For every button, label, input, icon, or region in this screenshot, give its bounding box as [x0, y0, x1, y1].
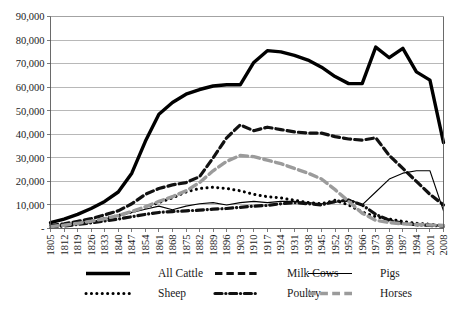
x-axis-tick-label: 1966 — [357, 235, 368, 256]
x-axis-tick-label: 1994 — [411, 234, 422, 256]
x-axis-tick-label: 1973 — [370, 235, 381, 256]
series-line-milk-cows — [51, 125, 444, 226]
x-axis-tick-label: 1819 — [72, 235, 83, 256]
y-axis-tick-label: 30,000 — [16, 153, 45, 164]
y-axis-tick-label: 90,000 — [16, 11, 45, 22]
legend-label: Sheep — [158, 287, 186, 300]
x-axis-tick-label: 1952 — [330, 235, 341, 256]
x-axis-tick-label: 1861 — [154, 235, 165, 256]
livestock-line-chart: -10,00020,00030,00040,00050,00060,00070,… — [0, 0, 457, 313]
x-axis-tick-label: 1910 — [248, 235, 259, 256]
legend-label: All Cattle — [158, 267, 203, 279]
y-axis-tick-label: 40,000 — [16, 129, 45, 140]
x-axis-tick-label: 1938 — [303, 235, 314, 256]
legend-label: Horses — [380, 287, 412, 299]
x-axis-tick-label: 1903 — [235, 235, 246, 256]
legend-item-poultry[interactable]: Poultry — [215, 287, 321, 300]
x-axis-tick-label: 1882 — [194, 235, 205, 256]
x-axis-tick-label: 1945 — [316, 235, 327, 256]
y-axis-tick-label: 20,000 — [16, 176, 45, 187]
x-axis-tick-label: 1805 — [45, 235, 56, 256]
x-axis-tick-label: 2008 — [438, 235, 449, 256]
x-axis-tick-label: 1980 — [384, 235, 395, 256]
y-axis-tick-label: 50,000 — [16, 106, 45, 117]
x-axis-tick-label: 1875 — [181, 235, 192, 256]
x-axis-tick-label: 1889 — [208, 235, 219, 256]
x-axis-tick-label: 1840 — [113, 235, 124, 256]
x-axis-tick-label: 1812 — [59, 235, 70, 256]
legend-label: Poultry — [287, 287, 321, 300]
x-axis-tick-label: 1868 — [167, 235, 178, 256]
y-axis-tick-label: 70,000 — [16, 58, 45, 69]
legend-item-horses[interactable]: Horses — [308, 287, 412, 299]
x-axis-tick-labels: 1805181218191826183318401847185418611868… — [45, 234, 449, 256]
plot-series-group — [51, 47, 444, 227]
chart-legend: All CattleMilk CowsPigsSheepPoultryHorse… — [86, 267, 412, 300]
legend-label: Pigs — [380, 267, 400, 280]
x-axis-tick-label: 1833 — [99, 235, 110, 256]
x-axis-tick-label: 1826 — [86, 235, 97, 256]
y-axis-tick-label: 80,000 — [16, 35, 45, 46]
legend-item-all-cattle[interactable]: All Cattle — [86, 267, 203, 279]
x-axis-tick-label: 1924 — [275, 234, 286, 256]
x-axis-tick-label: 1847 — [126, 235, 137, 256]
x-axis-tick-label: 1959 — [343, 235, 354, 256]
y-axis-tick-label: 10,000 — [16, 200, 45, 211]
x-axis-tick-label: 1896 — [221, 235, 232, 256]
legend-item-sheep[interactable]: Sheep — [86, 287, 186, 300]
x-axis-tick-label: 1987 — [397, 235, 408, 256]
x-axis-tick-label: 1917 — [262, 235, 273, 256]
series-line-horses — [51, 155, 444, 226]
series-line-all-cattle — [51, 47, 444, 222]
x-axis-tick-label: 1931 — [289, 235, 300, 256]
x-axis-tick-label: 2001 — [425, 235, 436, 256]
x-axis-tick-label: 1854 — [140, 234, 151, 256]
chart-container: -10,00020,00030,00040,00050,00060,00070,… — [0, 0, 457, 313]
y-axis-tick-label: - — [41, 223, 45, 234]
y-axis-tick-label: 60,000 — [16, 82, 45, 93]
y-axis-tick-labels: -10,00020,00030,00040,00050,00060,00070,… — [16, 11, 51, 234]
